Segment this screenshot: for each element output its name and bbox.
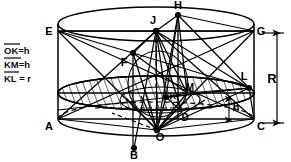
point-label-O: O [156, 131, 165, 143]
dimension-label-R: R [267, 71, 277, 86]
point-label-A: A [45, 120, 53, 132]
dot-J [153, 28, 159, 34]
point-label-M: M [186, 82, 194, 93]
dot-L [246, 85, 252, 91]
point-label-G: G [257, 25, 266, 37]
legend-block: OK=h KM=h KL = r [4, 44, 31, 84]
point-label-H: H [174, 0, 182, 11]
point-label-J: J [150, 14, 156, 26]
diagram-canvas: R h E G A C H J F L M K D O B OK=h KM=h [0, 0, 291, 162]
geometry-figure: R h E G A C H J F L M K D O B OK=h KM=h [0, 0, 291, 162]
point-label-C: C [257, 120, 265, 132]
point-label-E: E [45, 25, 52, 37]
dot-H [175, 12, 181, 18]
dot-K [163, 94, 169, 100]
dot-F [130, 50, 136, 56]
point-label-K: K [170, 90, 177, 101]
point-label-B: B [130, 149, 138, 161]
point-label-L: L [241, 70, 248, 82]
line-H-G [178, 15, 254, 31]
legend-line-1: OK=h [4, 45, 30, 56]
dimension-label-h: h [233, 101, 240, 113]
legend-line-3: KL = r [4, 73, 31, 84]
point-label-D: D [181, 112, 188, 123]
line-H-J [156, 15, 178, 31]
point-label-F: F [121, 56, 128, 68]
legend-line-2: KM=h [4, 59, 30, 70]
